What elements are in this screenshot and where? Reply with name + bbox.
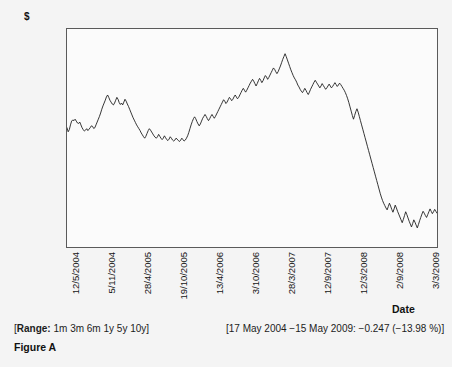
x-tick-label: 2/9/2008 (394, 252, 405, 289)
range-options[interactable]: 1m 3m 6m 1y 5y 10y (53, 323, 146, 334)
price-line-chart (67, 29, 437, 247)
range-bracket-close: ] (146, 323, 149, 334)
y-axis-unit-label: $ (24, 11, 30, 22)
figure-caption: Figure A (14, 341, 56, 353)
x-tick-label: 13/4/2006 (214, 252, 225, 294)
series-line-dollar (67, 54, 437, 228)
figure-a-container: $ 2.21612.12432.03241.94051.84871.75681.… (0, 0, 452, 367)
x-tick-label: 28/4/2005 (142, 252, 153, 294)
range-selector[interactable]: [Range: 1m 3m 6m 1y 5y 10y] (14, 323, 149, 334)
chart-plot-area (66, 28, 438, 248)
x-axis-title: Date (392, 303, 415, 315)
x-tick-label: 12/3/2008 (358, 252, 369, 294)
x-tick-label: 12/9/2007 (322, 252, 333, 294)
x-tick-label: 19/10/2005 (178, 252, 189, 300)
x-tick-label: 5/11/2004 (106, 252, 117, 294)
period-change-summary: [17 May 2004 −15 May 2009: −0.247 (−13.9… (226, 323, 444, 334)
x-tick-label: 28/3/2007 (286, 252, 297, 294)
x-tick-label: 12/5/2004 (70, 252, 81, 294)
x-tick-label: 3/10/2006 (250, 252, 261, 294)
range-label: Range: (17, 323, 51, 334)
x-tick-label: 3/3/2009 (430, 252, 441, 289)
